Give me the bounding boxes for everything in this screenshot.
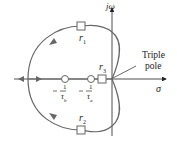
arrow-icon [18, 76, 24, 82]
r1-label: r1 [79, 33, 86, 45]
arrow-icon [49, 38, 57, 45]
root-marker-r3 [98, 75, 106, 83]
r3-label: r3 [99, 62, 106, 74]
arrow-icon [36, 76, 42, 82]
sigma-axis-label: σ [156, 84, 161, 94]
zero-b-numerator: 1 [63, 84, 67, 91]
jw-axis-label: jω [106, 2, 115, 11]
zero-marker-a [88, 76, 95, 83]
root-locus-plot [0, 0, 177, 146]
zero-b-denominator: τb [61, 93, 66, 103]
zero-a-numerator: 1 [89, 84, 93, 91]
triple-label-line2: pole [145, 62, 161, 72]
r2-label: r2 [79, 113, 86, 125]
locus-lower [28, 79, 119, 132]
root-marker-r1 [77, 22, 85, 30]
root-marker-r2 [77, 126, 85, 134]
arrow-icon [49, 113, 57, 120]
triple-label-line1: Triple [142, 51, 165, 61]
zero-a-denominator: τa [87, 93, 92, 103]
zero-marker-b [62, 76, 69, 83]
